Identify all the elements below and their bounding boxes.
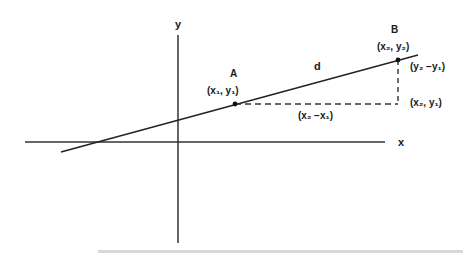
point-b-name: B	[391, 24, 398, 35]
bottom-border	[98, 250, 463, 253]
y-axis-label: y	[175, 18, 182, 30]
point-a-name: A	[230, 68, 237, 79]
coordinate-diagram: x y A (x₁, y₁) B (x₂, y₂) d (y₂ −y₁) (x₂…	[0, 0, 463, 256]
segment-d-label: d	[314, 60, 321, 72]
point-a-coords: (x₁, y₁)	[207, 85, 239, 96]
point-b-coords: (x₂, y₂)	[377, 41, 409, 52]
x-axis-label: x	[398, 136, 405, 148]
point-a	[233, 102, 238, 107]
dy-label: (y₂ −y₁)	[410, 61, 445, 72]
point-b	[396, 58, 401, 63]
point-c-coords: (x₂, y₁)	[410, 97, 442, 108]
dx-label: (x₂ −x₁)	[298, 110, 333, 121]
